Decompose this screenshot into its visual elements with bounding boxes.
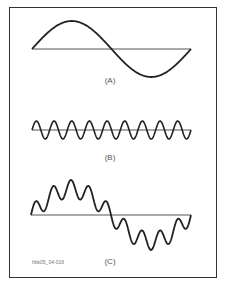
waveforms (0, 0, 226, 287)
panel-label-b: (B) (105, 153, 116, 162)
panel-label-a: (A) (105, 76, 116, 85)
panel-label-c: (C) (104, 257, 115, 266)
figure-id-label: hbk05_04-018 (32, 259, 64, 265)
